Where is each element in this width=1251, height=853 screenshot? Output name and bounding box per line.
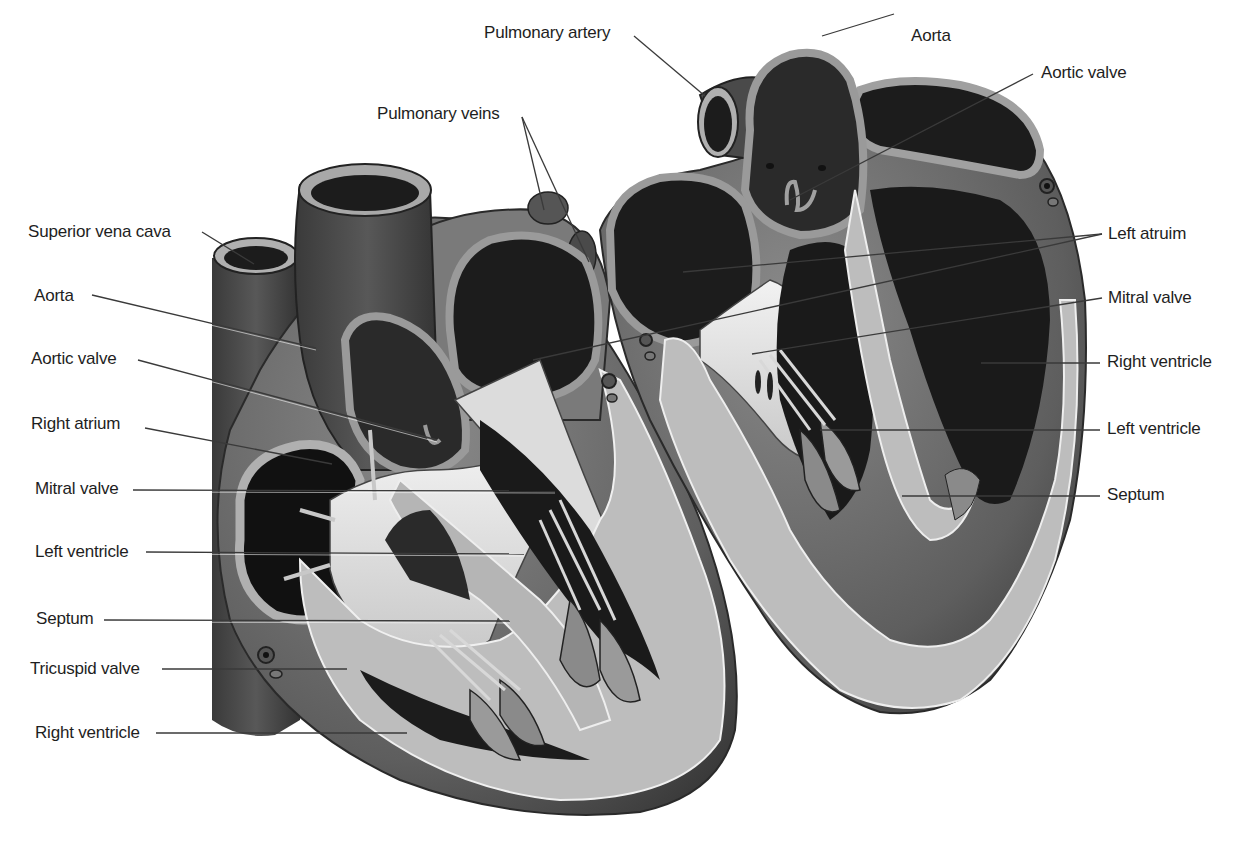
label-aortic-valve-right: Aortic valve <box>1041 63 1126 83</box>
label-tricuspid-valve: Tricuspid valve <box>30 659 140 679</box>
label-pulmonary-veins: Pulmonary veins <box>377 104 500 124</box>
label-right-ventricle: Right ventricle <box>35 723 140 743</box>
label-pulmonary-artery: Pulmonary artery <box>484 23 610 43</box>
label-aortic-valve: Aortic valve <box>31 349 116 369</box>
label-left-ventricle-right: Left ventricle <box>1107 419 1201 439</box>
label-aorta: Aorta <box>34 286 74 306</box>
label-aorta-top: Aorta <box>911 26 951 46</box>
label-left-ventricle: Left ventricle <box>35 542 129 562</box>
label-right-ventricle-right: Right ventricle <box>1107 352 1212 372</box>
label-right-atrium: Right atrium <box>31 414 120 434</box>
heart-diagram: Superior vena cava Aorta Aortic valve Ri… <box>0 0 1251 853</box>
label-septum-right: Septum <box>1107 485 1164 505</box>
label-mitral-valve-right: Mitral valve <box>1108 288 1192 308</box>
label-superior-vena-cava: Superior vena cava <box>28 222 171 242</box>
label-mitral-valve: Mitral valve <box>35 479 119 499</box>
label-septum: Septum <box>36 609 93 629</box>
heart-illustration <box>0 0 1251 853</box>
label-left-atrium-right: Left atruim <box>1108 224 1186 244</box>
